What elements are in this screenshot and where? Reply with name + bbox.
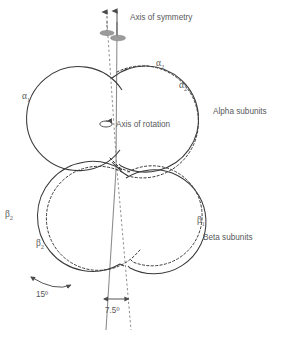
hemoglobin-rotation-diagram: Axis of symmetry Axis of rotation Alpha … (0, 0, 288, 339)
angle-15-arrow (31, 277, 71, 287)
axis-solid-line (106, 22, 117, 330)
axis-disc-dashed (100, 30, 114, 35)
label-angle-7-5: 7.5º (105, 306, 119, 315)
label-beta1: β1 (197, 215, 205, 227)
label-alpha-subunits: Alpha subunits (213, 107, 267, 116)
subunit-alpha1-outline (27, 67, 122, 171)
label-axis-of-symmetry: Axis of symmetry (130, 13, 193, 22)
label-alpha1: α1 (22, 91, 30, 103)
label-beta2-solid: β2 (5, 209, 13, 221)
label-axis-of-rotation: Axis of rotation (116, 120, 171, 129)
subunit-beta1-solid-outline (126, 170, 206, 274)
central-notch (110, 158, 130, 176)
label-beta-subunits: Beta subunits (203, 233, 253, 242)
subunit-beta2-dashed-outline (46, 166, 140, 270)
axis-of-symmetry-arrows (100, 11, 126, 41)
axis-disc-solid (111, 35, 126, 41)
label-angle-15: 15º (36, 290, 48, 299)
label-alpha2-solid: α2 (179, 80, 187, 92)
diagram-canvas: Axis of symmetry Axis of rotation Alpha … (0, 0, 288, 339)
label-alpha2-dashed: α2 (156, 58, 164, 70)
axis-of-rotation-glyph (100, 121, 112, 127)
